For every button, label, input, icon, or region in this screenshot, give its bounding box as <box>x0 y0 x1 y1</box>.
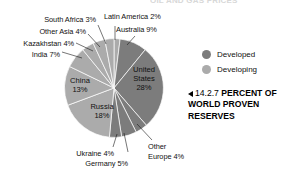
left-triangle-icon <box>188 91 193 97</box>
cropped-page-header: OIL AND GAS PRICES <box>150 0 290 7</box>
slice-label-india: India 7% <box>2 51 60 60</box>
legend: Developed Developing <box>202 48 257 78</box>
figure-root: OIL AND GAS PRICES <box>0 0 290 173</box>
slice-label-ukraine: Ukraine 4% <box>58 150 114 159</box>
slice-label-latin-america: Latin America 2% <box>104 13 161 22</box>
legend-label-developing: Developing <box>217 65 257 74</box>
slice-label-australia: Australia 9% <box>116 26 157 35</box>
figure-number: 14.2.7 <box>195 88 219 98</box>
legend-item-developed: Developed <box>202 48 257 61</box>
cropped-page-header-text: OIL AND GAS PRICES <box>150 0 238 5</box>
slice-label-kazakhstan: Kazakhstan 4% <box>2 40 74 49</box>
legend-swatch-developed-circle-icon <box>202 50 211 59</box>
slice-label-united-states-line3: 28% <box>124 84 164 93</box>
slice-label-russia-line2: 18% <box>82 112 122 121</box>
legend-item-developing: Developing <box>202 63 257 76</box>
figure-caption: 14.2.7 PERCENT OF WORLD PROVEN RESERVES <box>188 88 290 122</box>
legend-swatch-developing-circle-icon <box>202 65 211 74</box>
slice-label-south-africa: South Africa 3% <box>10 16 96 25</box>
slice-label-china-line2: 13% <box>62 86 98 95</box>
legend-label-developed: Developed <box>217 50 255 59</box>
slice-label-other-asia: Other Asia 4% <box>10 28 86 37</box>
slice-label-germany: Germany 5% <box>66 160 128 169</box>
slice-label-other-europe-line2: Europe 4% <box>148 153 184 162</box>
slice-label-other-europe-line1: Other <box>148 143 166 152</box>
